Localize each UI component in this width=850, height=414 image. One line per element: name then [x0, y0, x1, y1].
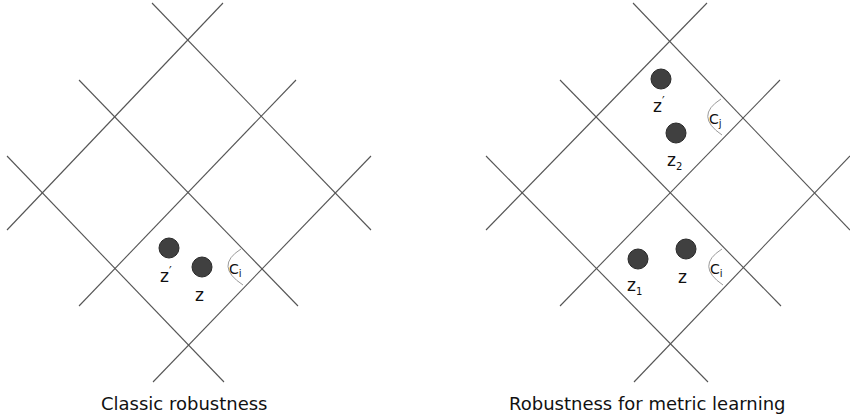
point-z-prime [651, 69, 671, 89]
label-z-prime: z′ [653, 94, 665, 116]
left-points: z′ z Ci [159, 238, 243, 305]
point-z1 [628, 249, 648, 269]
label-c-i: Ci [710, 261, 723, 279]
label-c-i: Ci [229, 261, 242, 279]
label-z-prime: z′ [160, 264, 172, 286]
point-z [676, 239, 696, 259]
point-z [192, 257, 212, 277]
point-z-prime [159, 238, 179, 258]
label-z1: z1 [627, 275, 642, 297]
label-z: z [678, 267, 687, 287]
right-points: z′ z2 Cj z1 z Ci [627, 69, 723, 297]
caption-classic-robustness: Classic robustness [101, 393, 268, 414]
left-grid [7, 3, 371, 382]
label-c-j: Cj [709, 111, 722, 129]
right-grid [486, 3, 850, 382]
label-z2: z2 [667, 150, 682, 172]
caption-metric-learning-robustness: Robustness for metric learning [509, 393, 786, 414]
point-z2 [666, 123, 686, 143]
label-z: z [195, 285, 204, 305]
